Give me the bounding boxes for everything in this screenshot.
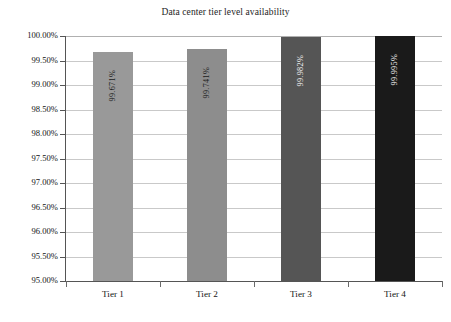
x-axis-tick-label: Tier 3 xyxy=(254,289,348,299)
x-axis-tick-label: Tier 2 xyxy=(160,289,254,299)
y-axis-tick-label: 97.50% xyxy=(2,153,58,163)
y-axis-tick-label: 98.50% xyxy=(2,104,58,114)
bar-tier-1: 99.671% xyxy=(93,52,133,281)
bar-tier-4: 99.995% xyxy=(375,36,415,281)
bar-chart: Data center tier level availability 100.… xyxy=(0,0,451,322)
x-axis-tick xyxy=(442,281,443,287)
y-axis-tick-label: 96.00% xyxy=(2,226,58,236)
bar-value-label: 99.995% xyxy=(390,54,399,85)
x-axis-tick xyxy=(160,281,161,287)
y-axis-tick-label: 95.00% xyxy=(2,275,58,285)
x-axis-tick xyxy=(66,281,67,287)
y-axis-tick-label: 100.00% xyxy=(2,30,58,40)
y-axis-tick-label: 99.50% xyxy=(2,55,58,65)
bar-tier-3: 99.982% xyxy=(281,37,321,281)
bar-value-label: 99.741% xyxy=(202,67,211,98)
bar-value-label: 99.982% xyxy=(296,55,305,86)
y-axis-tick-label: 97.00% xyxy=(2,177,58,187)
y-axis-tick-label: 99.00% xyxy=(2,79,58,89)
plot-area: 99.671%99.741%99.982%99.995% xyxy=(66,36,442,281)
x-axis-tick-label: Tier 4 xyxy=(348,289,442,299)
y-axis-tick-label: 98.00% xyxy=(2,128,58,138)
chart-title: Data center tier level availability xyxy=(0,7,451,17)
y-axis-tick-label: 96.50% xyxy=(2,202,58,212)
y-axis-tick-label: 95.50% xyxy=(2,251,58,261)
x-axis-tick xyxy=(348,281,349,287)
bar-value-label: 99.671% xyxy=(108,70,117,101)
bar-tier-2: 99.741% xyxy=(187,49,227,281)
x-axis-tick xyxy=(254,281,255,287)
y-axis-tick-labels: 100.00%99.50%99.00%98.50%98.00%97.50%97.… xyxy=(0,0,58,322)
x-axis-tick-label: Tier 1 xyxy=(66,289,160,299)
